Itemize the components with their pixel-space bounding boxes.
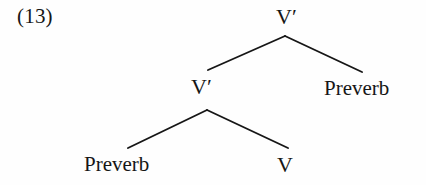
node-right-preverb: Preverb [324,78,389,99]
example-number: (13) [17,6,53,27]
branch-mid-vbar-to-bottom-v [207,110,288,148]
branch-root-to-right-preverb [285,36,362,72]
node-mid-v-bar: V′ [191,76,212,98]
syntax-tree-figure: (13) V′ V′ Preverb Preverb V [0,0,426,185]
node-left-preverb: Preverb [84,154,149,175]
branch-root-to-mid-vbar [208,36,285,70]
node-bottom-v: V [277,154,293,176]
node-root-v-bar: V′ [276,6,297,28]
branch-mid-vbar-to-left-preverb [128,110,207,148]
